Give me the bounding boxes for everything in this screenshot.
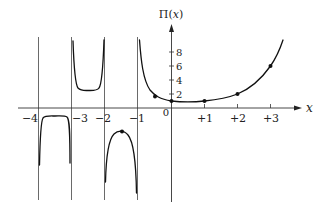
gamma-function-chart: x −4 −3 −2 −1 0 +1 +2 +3 Π(x) 2 4 6 8 — [0, 0, 316, 215]
x-axis-arrow-icon — [294, 106, 302, 111]
y-axis-arrow-icon — [169, 24, 174, 32]
y-tick-label: 8 — [176, 47, 182, 58]
y-axis-label: Π(x) — [159, 8, 183, 21]
data-point — [170, 99, 174, 103]
data-point — [153, 95, 157, 99]
x-tick-label: −1 — [129, 112, 145, 125]
x-tick-label: 0 — [163, 107, 169, 118]
y-tick-label: 2 — [176, 89, 182, 100]
y-axis: Π(x) 2 4 6 8 — [159, 8, 183, 202]
curve-branch-neg3-neg2 — [73, 40, 104, 91]
x-tick-label: −4 — [22, 112, 38, 125]
data-point — [236, 92, 240, 96]
x-axis-label: x — [306, 101, 313, 115]
data-point — [203, 99, 207, 103]
x-tick-label: +3 — [263, 112, 279, 125]
x-tick-label: −2 — [95, 112, 111, 125]
curve-branch-neg2-neg1 — [106, 131, 137, 193]
curve-branch-main — [140, 40, 284, 102]
y-tick-label: 6 — [176, 61, 182, 72]
y-tick-label: 4 — [176, 75, 182, 86]
x-tick-label: −3 — [72, 112, 88, 125]
data-point — [269, 64, 273, 68]
x-tick-label: +1 — [197, 112, 213, 125]
data-point — [120, 130, 124, 134]
curve-branch-neg4-neg3 — [40, 116, 71, 165]
x-axis: x −4 −3 −2 −1 0 +1 +2 +3 — [18, 101, 313, 125]
x-tick-label: +2 — [230, 112, 246, 125]
